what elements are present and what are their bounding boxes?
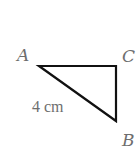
vertex-label-c: C [122,48,135,65]
triangle-diagram: A C B 4 cm [0,0,138,155]
vertex-label-b: B [122,132,135,149]
vertex-label-a: A [17,47,29,64]
hypotenuse-length-label: 4 cm [32,99,64,115]
triangle-shape [0,0,138,155]
